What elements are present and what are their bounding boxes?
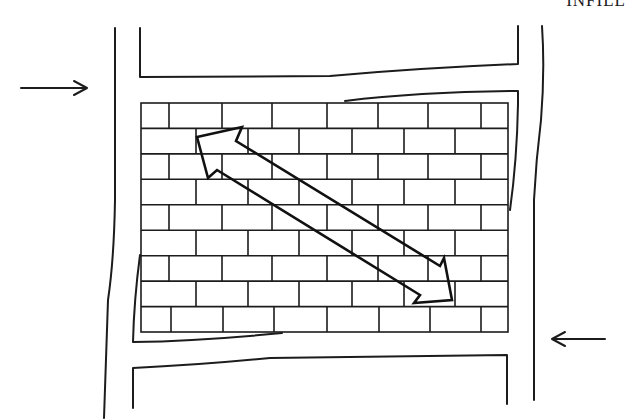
frame-top-inner [345, 91, 518, 210]
right-column-outer [534, 26, 543, 400]
load-arrow-right [552, 332, 605, 346]
load-arrow-left [21, 81, 87, 95]
frame-bottom-inner [133, 255, 282, 342]
top-beam [140, 26, 518, 77]
left-column-outer [104, 28, 115, 418]
bottom-beam [133, 355, 507, 408]
